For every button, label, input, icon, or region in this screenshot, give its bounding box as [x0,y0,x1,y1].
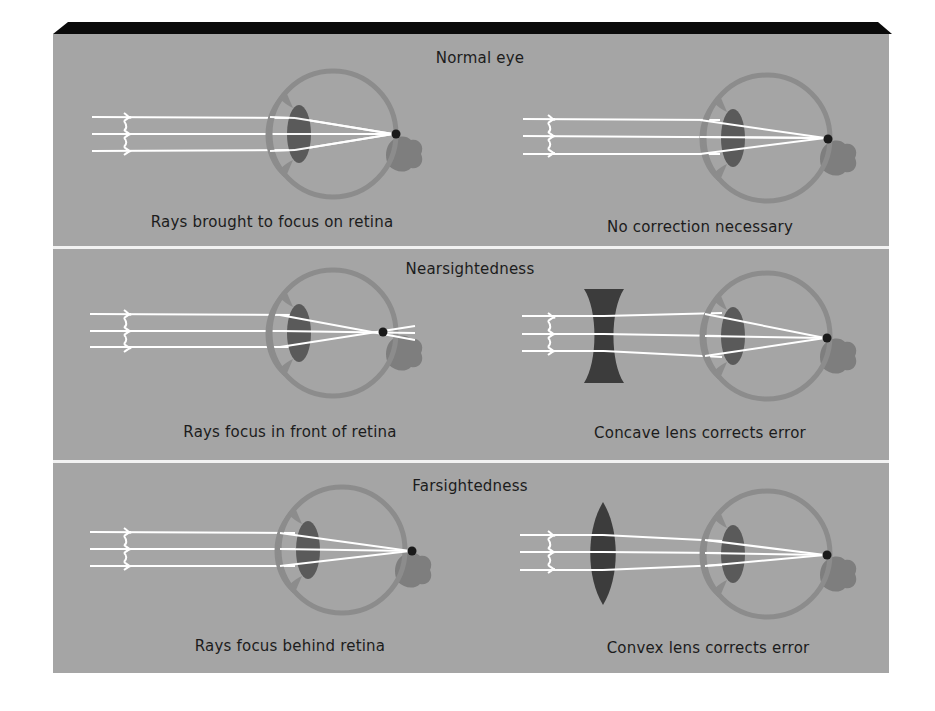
focus-point [379,328,388,337]
eye-refraction-diagram: Normal eye Rays brought to focus on reti… [0,0,935,711]
caption-normal-left: Rays brought to focus on retina [151,213,394,231]
focus-point [823,551,832,560]
caption-farsighted-right: Convex lens corrects error [607,639,810,657]
top-band [53,22,892,34]
focus-point [824,135,833,144]
row-divider [53,460,889,463]
focus-point [408,547,417,556]
caption-nearsighted-right: Concave lens corrects error [594,424,806,442]
focus-point [823,334,832,343]
caption-normal-right: No correction necessary [607,218,793,236]
row-divider [53,246,889,249]
caption-farsighted-left: Rays focus behind retina [195,637,385,655]
row-title-normal: Normal eye [436,49,524,67]
diagram-canvas [0,0,935,711]
row-title-farsighted: Farsightedness [412,477,527,495]
row-title-nearsighted: Nearsightedness [406,260,535,278]
caption-nearsighted-left: Rays focus in front of retina [183,423,396,441]
focus-point [392,130,401,139]
